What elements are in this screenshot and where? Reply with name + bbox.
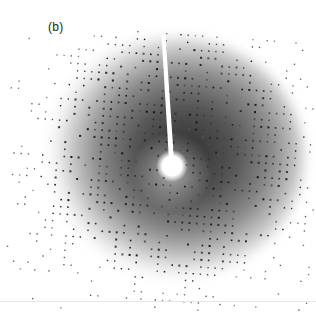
bottom-rule <box>0 301 316 302</box>
beamstop-center <box>162 156 182 176</box>
beamstop <box>0 0 316 317</box>
panel-label: (b) <box>48 20 64 34</box>
beamstop-arm <box>162 36 175 160</box>
diffraction-figure: (b) <box>0 0 316 317</box>
